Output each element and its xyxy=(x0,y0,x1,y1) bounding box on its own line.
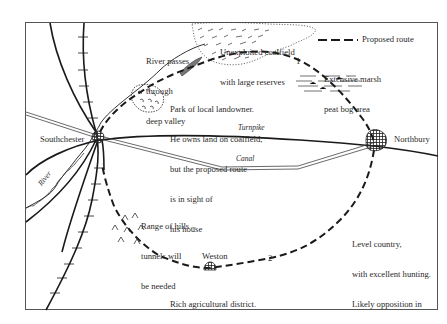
northbury-label: Northbury xyxy=(394,134,430,144)
annotation-agricultural: Rich agricultural district. Local landow… xyxy=(170,279,274,324)
southchester-town xyxy=(92,131,104,143)
route-marker-2: 2 xyxy=(268,253,272,263)
northbury-town xyxy=(366,129,387,150)
weston-town xyxy=(204,262,216,270)
existing-railway xyxy=(46,23,104,310)
route-map: Proposed route Southchester Northbury We… xyxy=(0,0,447,324)
annotation-marsh: Extensive marsh peat bog area xyxy=(324,54,381,124)
route-marker-1: 1 xyxy=(296,56,300,66)
southchester-label: Southchester xyxy=(40,134,84,144)
legend-route-label: Proposed route xyxy=(362,34,414,44)
annotation-hunting: Level country, with excellent hunting. L… xyxy=(352,219,431,324)
weston-label: Weston xyxy=(202,251,228,261)
